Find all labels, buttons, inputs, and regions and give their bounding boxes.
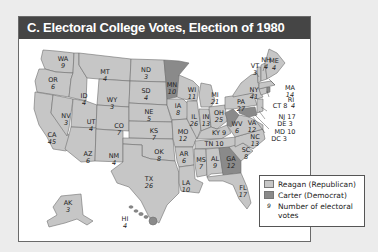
legend-item-reagan: Reagan (Republican) xyxy=(264,180,360,190)
svg-text:DE 3: DE 3 xyxy=(277,120,292,128)
svg-text:13: 13 xyxy=(202,120,210,128)
svg-text:4: 4 xyxy=(123,222,127,230)
svg-text:4: 4 xyxy=(103,75,107,83)
legend-item-carter: Carter (Democrat) xyxy=(264,191,360,201)
svg-text:TN 10: TN 10 xyxy=(203,140,223,148)
svg-text:9: 9 xyxy=(61,62,65,70)
svg-text:3: 3 xyxy=(66,206,70,214)
svg-text:4: 4 xyxy=(112,159,116,167)
svg-text:4: 4 xyxy=(82,99,86,107)
legend-label-reagan: Reagan (Republican) xyxy=(278,180,356,189)
svg-text:6: 6 xyxy=(235,127,239,135)
svg-text:21: 21 xyxy=(211,98,219,106)
svg-text:3: 3 xyxy=(110,103,114,111)
legend-votes-line1: Number of electoral xyxy=(278,202,353,211)
svg-text:4: 4 xyxy=(291,102,295,110)
svg-text:10: 10 xyxy=(182,186,190,194)
svg-text:9: 9 xyxy=(213,162,217,170)
legend-label-votes: Number of electoral votes xyxy=(278,202,353,220)
svg-text:8: 8 xyxy=(176,109,180,117)
carter-swatch xyxy=(264,191,274,199)
svg-text:4: 4 xyxy=(264,63,268,71)
svg-text:45: 45 xyxy=(48,138,56,146)
svg-text:6: 6 xyxy=(86,157,90,165)
svg-text:8: 8 xyxy=(244,153,248,161)
legend-label-carter: Carter (Democrat) xyxy=(278,191,347,200)
svg-text:KY 9: KY 9 xyxy=(212,129,226,137)
vote-number-symbol: 9 xyxy=(264,202,274,209)
svg-text:27: 27 xyxy=(237,105,246,113)
svg-text:3: 3 xyxy=(144,73,148,81)
legend-item-votes: 9 Number of electoral votes xyxy=(264,202,360,220)
svg-text:6: 6 xyxy=(182,157,186,165)
svg-text:13: 13 xyxy=(251,140,259,148)
svg-text:8: 8 xyxy=(157,155,161,163)
svg-text:4: 4 xyxy=(272,64,276,72)
svg-text:6: 6 xyxy=(51,83,55,91)
svg-text:3: 3 xyxy=(64,119,68,127)
map-legend: Reagan (Republican) Carter (Democrat) 9 … xyxy=(259,175,365,227)
state-nj xyxy=(257,99,263,113)
svg-text:3: 3 xyxy=(253,69,257,77)
svg-text:5: 5 xyxy=(147,115,151,123)
svg-text:4: 4 xyxy=(144,94,148,102)
svg-text:41: 41 xyxy=(250,93,258,101)
svg-text:26: 26 xyxy=(190,120,198,128)
svg-text:10: 10 xyxy=(168,88,176,96)
svg-text:17: 17 xyxy=(239,191,248,199)
svg-text:4: 4 xyxy=(89,125,93,133)
svg-text:12: 12 xyxy=(179,135,187,143)
svg-text:12: 12 xyxy=(227,162,235,170)
svg-text:26: 26 xyxy=(145,182,153,190)
svg-text:12: 12 xyxy=(248,126,256,134)
svg-text:CT 8: CT 8 xyxy=(273,102,288,110)
reagan-swatch xyxy=(264,180,274,188)
svg-text:11: 11 xyxy=(188,93,196,101)
svg-text:DC 3: DC 3 xyxy=(271,135,287,143)
svg-text:25: 25 xyxy=(215,116,223,124)
legend-votes-line2: votes xyxy=(278,211,299,220)
